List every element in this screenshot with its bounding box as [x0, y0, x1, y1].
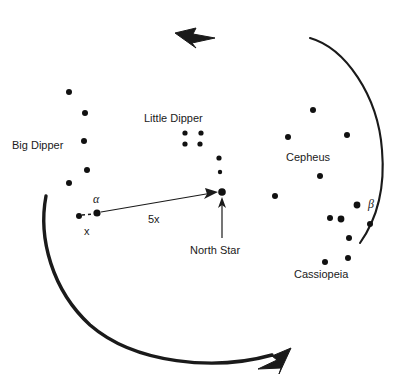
constellation-label-cassiopeia: Cassiopeia — [294, 269, 348, 280]
star-cepheus-0 — [310, 107, 316, 113]
star-cassiopeia-4 — [346, 235, 352, 241]
constellation-label-big-dipper: Big Dipper — [12, 140, 63, 151]
star-group-little-dipper — [182, 130, 225, 195]
star-cassiopeia-2 — [338, 216, 345, 223]
star-little-dipper-4 — [216, 155, 221, 160]
star-label-beta: β — [368, 198, 374, 210]
star-big-dipper-0 — [66, 89, 72, 95]
star-north-star — [218, 188, 226, 196]
star-cepheus-2 — [344, 132, 350, 138]
rotation-arrowhead-bottom — [258, 348, 291, 374]
star-little-dipper-2 — [182, 141, 187, 146]
star-big-dipper-2 — [81, 138, 87, 144]
distance-label-x: x — [84, 226, 90, 237]
rotation-arc-top — [310, 38, 383, 243]
star-beta-star — [354, 202, 361, 209]
star-little-dipper-3 — [197, 141, 202, 146]
star-big-dipper-1 — [82, 110, 88, 116]
star-cassiopeia-6 — [322, 259, 328, 265]
star-chart-diagram: Big Dipper Little Dipper Cepheus Cassiop… — [0, 0, 413, 385]
distance-label-5x: 5x — [148, 214, 160, 225]
sky-canvas — [0, 0, 413, 385]
star-cepheus-3 — [317, 173, 323, 179]
star-pointer-star-alpha — [93, 209, 100, 216]
callout-label-north-star: North Star — [190, 245, 240, 256]
star-little-dipper-1 — [198, 130, 203, 135]
star-cepheus-1 — [285, 134, 291, 140]
constellation-label-little-dipper: Little Dipper — [144, 113, 203, 124]
star-cassiopeia-5 — [345, 255, 351, 261]
star-big-dipper-4 — [66, 180, 72, 186]
pointer-gap-marker — [82, 214, 94, 215]
star-cassiopeia-1 — [327, 215, 333, 221]
star-little-dipper-0 — [182, 130, 187, 135]
star-cassiopeia-3 — [367, 221, 373, 227]
north-star-callout-arrow — [218, 197, 226, 238]
star-big-dipper-3 — [84, 167, 90, 173]
constellation-label-cepheus: Cepheus — [286, 152, 330, 163]
star-label-alpha: α — [93, 193, 99, 205]
rotation-arrowhead-top — [175, 28, 215, 48]
star-little-dipper-5 — [218, 170, 222, 174]
star-pointer-star-outer — [76, 213, 82, 219]
pointer-line-5x — [101, 188, 218, 212]
stars-layer — [66, 89, 373, 265]
star-cepheus-4 — [272, 193, 278, 199]
